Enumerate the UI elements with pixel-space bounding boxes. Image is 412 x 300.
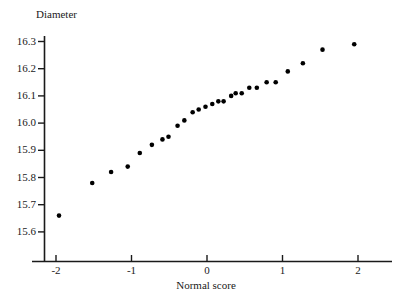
x-axis-tick-label: -1 bbox=[119, 264, 145, 276]
data-point bbox=[216, 99, 221, 104]
y-axis-tick-label: 16.0 bbox=[2, 116, 36, 128]
data-point bbox=[196, 107, 201, 112]
data-point bbox=[229, 94, 234, 99]
data-point bbox=[233, 91, 238, 96]
data-point bbox=[352, 42, 357, 47]
data-point bbox=[264, 80, 269, 85]
normal-probability-plot: Diameter Normal score 15.615.715.815.916… bbox=[0, 0, 412, 300]
data-point bbox=[203, 104, 208, 109]
y-axis-tick-label: 15.8 bbox=[2, 171, 36, 183]
data-point bbox=[247, 85, 252, 90]
data-point bbox=[138, 151, 143, 156]
y-axis-tick-label: 15.9 bbox=[2, 143, 36, 155]
data-point bbox=[210, 102, 215, 107]
data-point bbox=[285, 69, 290, 74]
data-point bbox=[175, 124, 180, 129]
data-point bbox=[301, 61, 306, 66]
data-point bbox=[182, 118, 187, 123]
data-point bbox=[166, 134, 171, 139]
data-point bbox=[125, 164, 130, 169]
data-point bbox=[273, 80, 278, 85]
data-point bbox=[221, 99, 226, 104]
data-point bbox=[239, 91, 244, 96]
data-points bbox=[57, 42, 357, 218]
x-axis-tick-label: 1 bbox=[270, 264, 296, 276]
y-axis-tick-label: 16.2 bbox=[2, 62, 36, 74]
data-point bbox=[57, 213, 62, 218]
y-axis-tick-label: 15.6 bbox=[2, 225, 36, 237]
data-point bbox=[109, 170, 114, 175]
plot-canvas bbox=[0, 0, 412, 300]
y-axis-tick-label: 16.3 bbox=[2, 35, 36, 47]
x-axis-tick-label: 0 bbox=[194, 264, 220, 276]
axes bbox=[32, 36, 392, 262]
y-axis-tick-label: 16.1 bbox=[2, 89, 36, 101]
x-axis-tick-label: -2 bbox=[43, 264, 69, 276]
data-point bbox=[320, 47, 325, 52]
y-axis-tick-label: 15.7 bbox=[2, 198, 36, 210]
data-point bbox=[255, 85, 260, 90]
data-point bbox=[160, 137, 165, 142]
data-point bbox=[90, 181, 95, 186]
data-point bbox=[150, 143, 155, 148]
data-point bbox=[190, 110, 195, 115]
x-axis-tick-label: 2 bbox=[345, 264, 371, 276]
